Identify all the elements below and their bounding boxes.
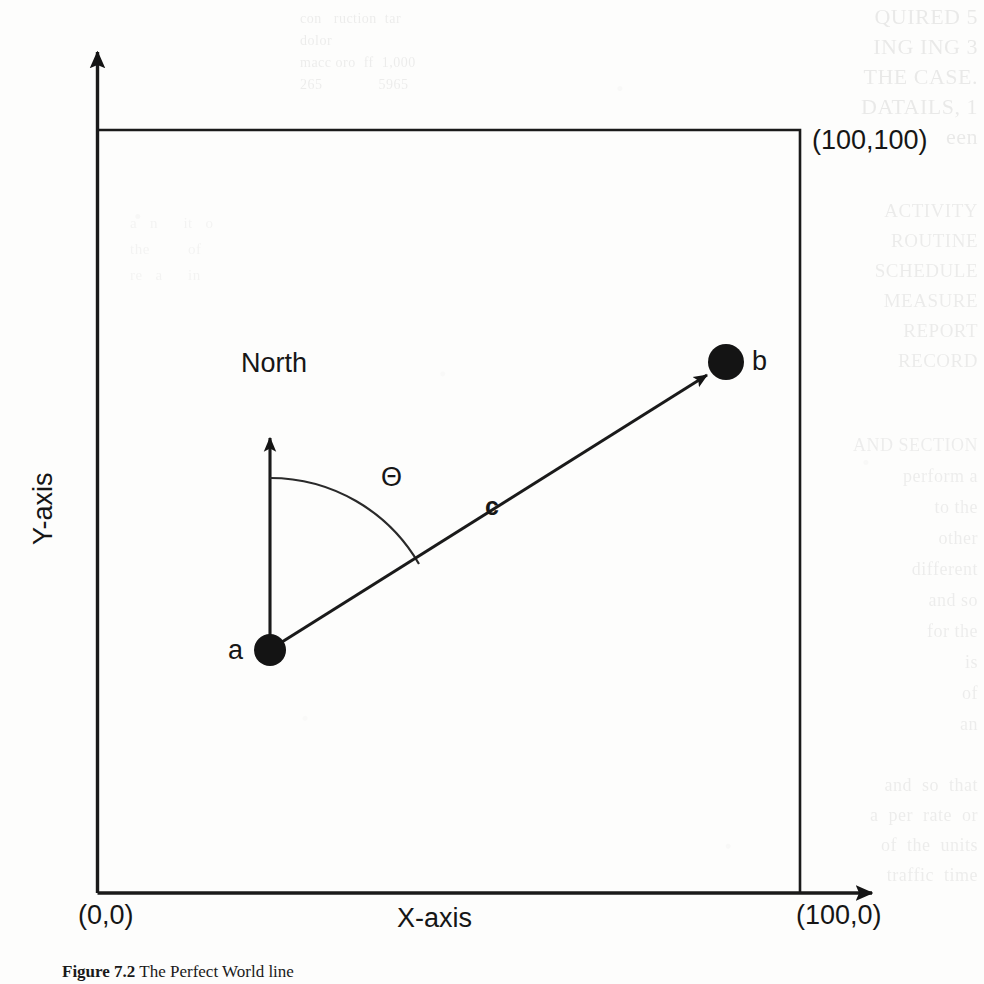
- point-a-label: a: [228, 635, 243, 666]
- segment-c-label: c: [485, 492, 499, 521]
- figure-caption: Figure 7.2 The Perfect World line: [62, 962, 294, 984]
- theta-label: Θ: [381, 462, 402, 493]
- point-b-dot: [708, 344, 744, 380]
- scanned-page: QUIRED 5 ING ING 3 THE CASE. DATAILS, 1 …: [0, 0, 984, 984]
- x-axis-label: X-axis: [397, 903, 472, 934]
- point-b-label: b: [752, 346, 767, 377]
- figure-caption-number: Figure 7.2: [62, 962, 135, 981]
- plot-boundary-box: [98, 130, 800, 893]
- figure-caption-text: The Perfect World line: [139, 962, 294, 981]
- north-label: North: [241, 348, 307, 379]
- corner-label-bottom-right: (100,0): [796, 900, 882, 931]
- y-axis-label: Y-axis: [28, 472, 59, 545]
- corner-label-top-right: (100,100): [812, 125, 928, 156]
- point-a-dot: [254, 634, 286, 666]
- corner-label-origin: (0,0): [78, 900, 134, 931]
